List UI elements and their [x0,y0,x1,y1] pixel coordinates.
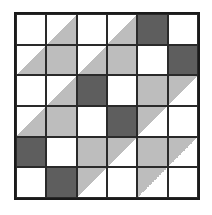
half-triangle-cell [107,14,137,45]
half-triangle-cell [107,137,137,168]
gray-cell [46,45,76,76]
half-triangle-cell [137,167,167,198]
white-cell [168,167,198,198]
dark-cell [77,75,107,106]
white-cell [16,75,46,106]
dark-cell [107,106,137,137]
half-triangle-cell [168,137,198,168]
dark-cell [46,167,76,198]
gray-cell [137,137,167,168]
half-triangle-cell [168,75,198,106]
half-triangle-cell [46,14,76,45]
half-triangle-cell [77,167,107,198]
gray-cell [137,75,167,106]
white-cell [168,14,198,45]
dark-cell [16,137,46,168]
white-cell [168,106,198,137]
white-cell [16,167,46,198]
dark-cell [168,45,198,76]
dark-cell [137,14,167,45]
white-cell [46,137,76,168]
half-triangle-cell [137,106,167,137]
white-cell [107,75,137,106]
white-cell [107,167,137,198]
gray-cell [107,45,137,76]
white-cell [16,14,46,45]
white-cell [137,45,167,76]
half-triangle-cell [77,45,107,76]
half-triangle-cell [16,45,46,76]
gray-cell [77,137,107,168]
white-cell [77,14,107,45]
gray-cell [46,106,76,137]
white-cell [77,106,107,137]
pattern-grid [14,12,200,200]
half-triangle-cell [46,75,76,106]
half-triangle-cell [16,106,46,137]
